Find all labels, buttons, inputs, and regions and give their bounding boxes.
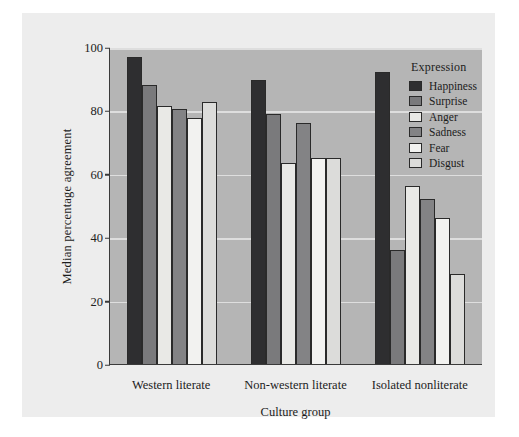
y-tick-label: 40 — [91, 231, 111, 246]
bar-disgust[interactable] — [326, 158, 341, 364]
bar-happiness[interactable] — [375, 72, 390, 364]
legend-item-sadness[interactable]: Sadness — [409, 125, 477, 141]
bar-fear[interactable] — [435, 218, 450, 364]
legend-item-fear[interactable]: Fear — [409, 140, 477, 156]
y-tick-label: 60 — [91, 167, 111, 182]
bar-fear[interactable] — [187, 118, 202, 364]
legend-swatch-icon — [409, 158, 422, 168]
x-axis-ticks: Western literateNon-western literateIsol… — [109, 366, 482, 392]
y-tick-label: 0 — [97, 358, 110, 373]
bar-group — [234, 48, 358, 364]
x-tick-label: Isolated nonliterate — [358, 366, 482, 392]
legend-label: Fear — [429, 142, 449, 154]
legend-item-anger[interactable]: Anger — [409, 109, 477, 125]
bar-surprise[interactable] — [266, 114, 281, 364]
bar-anger[interactable] — [157, 106, 172, 364]
bar-surprise[interactable] — [390, 250, 405, 364]
figure: Median percentage agreement 020406080100… — [22, 13, 495, 417]
y-axis-label: Median percentage agreement — [60, 48, 78, 365]
legend-label: Disgust — [429, 157, 464, 169]
legend-rows: HappinessSurpriseAngerSadnessFearDisgust — [409, 78, 477, 171]
legend-label: Happiness — [429, 80, 477, 92]
legend-item-disgust[interactable]: Disgust — [409, 156, 477, 172]
bar-fear[interactable] — [311, 158, 326, 364]
legend-swatch-icon — [409, 96, 422, 106]
x-tick-label: Non-western literate — [233, 366, 357, 392]
bar-disgust[interactable] — [450, 274, 465, 364]
legend-swatch-icon — [409, 81, 422, 91]
y-tick-label: 80 — [91, 104, 111, 119]
bar-surprise[interactable] — [142, 85, 157, 364]
y-tick-label: 20 — [91, 294, 111, 309]
bar-anger[interactable] — [405, 186, 420, 364]
legend-swatch-icon — [409, 112, 422, 122]
legend-label: Anger — [429, 111, 458, 123]
legend-title: Expression — [411, 60, 477, 75]
bar-group — [110, 48, 234, 364]
bar-happiness[interactable] — [127, 57, 142, 364]
legend-swatch-icon — [409, 127, 422, 137]
y-tick-label: 100 — [84, 41, 110, 56]
bar-anger[interactable] — [281, 163, 296, 364]
x-tick-label: Western literate — [109, 366, 233, 392]
legend-label: Surprise — [429, 95, 467, 107]
legend-item-surprise[interactable]: Surprise — [409, 94, 477, 110]
legend-item-happiness[interactable]: Happiness — [409, 78, 477, 94]
legend: Expression HappinessSurpriseAngerSadness… — [405, 58, 483, 175]
plot-area: 020406080100 Expression HappinessSurpris… — [109, 48, 482, 365]
bar-sadness[interactable] — [420, 199, 435, 364]
x-axis-label: Culture group — [109, 405, 482, 420]
bar-sadness[interactable] — [296, 123, 311, 364]
bar-disgust[interactable] — [202, 102, 217, 364]
legend-label: Sadness — [429, 126, 466, 138]
bar-sadness[interactable] — [172, 109, 187, 364]
legend-swatch-icon — [409, 143, 422, 153]
bar-happiness[interactable] — [251, 80, 266, 364]
